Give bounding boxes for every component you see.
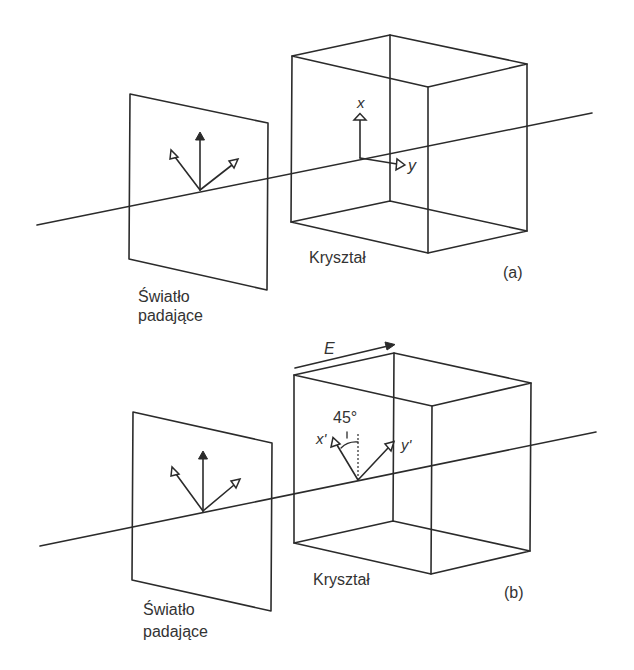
incident-light-label-line1: Światło <box>138 287 190 305</box>
incident-light-label-line2: padające <box>138 307 203 324</box>
incident-light-plane <box>132 412 272 611</box>
crystal-box-a <box>291 35 527 253</box>
crystal-axes-b: 45° x' y' <box>315 409 413 480</box>
beam-axis-line <box>37 113 592 225</box>
incident-light-label-line1: Światło <box>143 600 195 618</box>
x-prime-axis-label: x' <box>315 430 328 447</box>
incident-light-label-line2: padające <box>143 623 208 640</box>
crystal-bottom-face <box>291 201 527 253</box>
crystal-bottom-face <box>294 521 530 574</box>
panel-tag-a: (a) <box>503 264 523 281</box>
angle-label: 45° <box>333 409 357 426</box>
left-arrow-shaft <box>176 474 203 511</box>
angle-arc <box>341 442 358 448</box>
panel-a: x y Światło padające Kryształ (a) <box>37 35 592 324</box>
crystal-axes-a: x y <box>354 94 417 174</box>
y-axis-arrowhead-icon <box>396 159 405 170</box>
panel-tag-b: (b) <box>504 584 524 601</box>
x-prime-arrowhead-icon <box>331 438 340 448</box>
crystal-front-right-edge <box>431 406 432 574</box>
solid-arrowhead-icon <box>196 132 205 140</box>
y-axis-label: y <box>407 157 417 174</box>
crystal-label: Kryształ <box>313 571 370 588</box>
crystal-back-edge <box>393 353 394 521</box>
electro-optic-crystal-diagram: x y Światło padające Kryształ (a) E <box>0 0 634 670</box>
beam-axis-line <box>40 432 596 546</box>
open-arrowhead-icon <box>170 150 178 159</box>
crystal-right-edge <box>530 383 531 551</box>
field-arrowhead-icon <box>385 342 395 350</box>
incident-polarization-arrows <box>171 451 240 511</box>
field-label: E <box>324 340 335 357</box>
y-prime-axis-label: y' <box>400 436 413 453</box>
crystal-top-face <box>294 353 531 406</box>
crystal-front-left-edge <box>291 56 292 222</box>
panel-b: E <box>40 340 596 640</box>
x-axis-label: x <box>356 94 365 111</box>
open-arrowhead-icon <box>171 467 179 476</box>
crystal-box-b <box>294 353 531 574</box>
y-axis-shaft <box>360 158 397 164</box>
left-arrow-shaft <box>175 157 200 190</box>
incident-polarization-arrows <box>170 132 238 190</box>
x-prime-axis-shaft <box>337 445 358 480</box>
x-axis-arrowhead-icon <box>354 114 366 121</box>
crystal-label: Kryształ <box>309 249 366 266</box>
solid-arrowhead-icon <box>199 451 208 459</box>
crystal-top-face <box>292 35 527 87</box>
